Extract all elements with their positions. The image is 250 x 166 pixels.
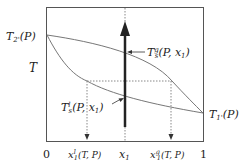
phase-diagram: T2'(P) T T1'(P) Tgs(P, x1) Tls(P, x1) 0 … bbox=[0, 0, 250, 166]
liquid-drop-arrowhead-icon bbox=[85, 134, 90, 140]
gas-drop-arrowhead-icon bbox=[169, 134, 174, 140]
x-tick-one: 1 bbox=[200, 148, 207, 161]
x-tick-gas-composition: xg1(T, P) bbox=[150, 148, 185, 162]
left-endpoint-label: T2'(P) bbox=[6, 30, 36, 44]
right-endpoint-label: T1'(P) bbox=[209, 108, 239, 122]
liquid-curve-label: Tls(P, x1) bbox=[61, 101, 104, 115]
vapor-curve-label: Tgs(P, x1) bbox=[147, 46, 190, 60]
x-tick-liquid-composition: xl1(T, P) bbox=[68, 148, 102, 162]
x-tick-overall-composition: x1 bbox=[119, 148, 130, 162]
heating-arrowhead-icon bbox=[120, 21, 130, 36]
liquid-label-pointer bbox=[112, 100, 120, 105]
y-axis-label: T bbox=[29, 61, 38, 75]
x-tick-zero: 0 bbox=[43, 148, 50, 161]
